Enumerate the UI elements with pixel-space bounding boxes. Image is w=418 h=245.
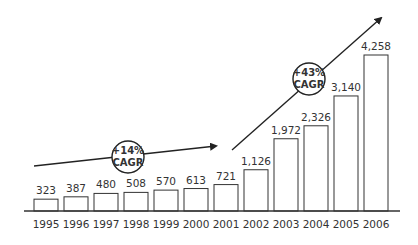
x-tick-label: 2000 xyxy=(183,218,210,230)
x-tick-label: 2003 xyxy=(273,218,300,230)
value-label: 387 xyxy=(66,182,86,194)
x-tick-label: 1995 xyxy=(33,218,60,230)
bar-2002 xyxy=(244,170,268,211)
value-label: 570 xyxy=(156,175,176,187)
bar-chart: 3231995387199648019975081998570199961320… xyxy=(0,0,418,245)
bar-2006 xyxy=(364,55,388,211)
value-label: 613 xyxy=(186,174,206,186)
x-tick-label: 2002 xyxy=(243,218,270,230)
bar-1998 xyxy=(124,192,148,211)
cagr-badge-43: +43% CAGR xyxy=(293,63,325,95)
bar-1999 xyxy=(154,190,178,211)
x-tick-label: 1999 xyxy=(153,218,180,230)
x-tick-label: 1997 xyxy=(93,218,120,230)
x-tick-label: 2005 xyxy=(333,218,360,230)
bar-1995 xyxy=(34,199,58,211)
value-label: 4,258 xyxy=(361,40,391,52)
bar-2001 xyxy=(214,185,238,211)
x-tick-label: 1998 xyxy=(123,218,150,230)
cagr-43-pct: +43% xyxy=(293,67,325,78)
bar-2005 xyxy=(334,96,358,211)
x-tick-label: 2001 xyxy=(213,218,240,230)
bar-1996 xyxy=(64,197,88,211)
value-label: 323 xyxy=(36,184,56,196)
bars-group: 3231995387199648019975081998570199961320… xyxy=(33,40,391,230)
cagr-14-label: CAGR xyxy=(113,157,144,168)
value-label: 1,126 xyxy=(241,155,271,167)
value-label: 480 xyxy=(96,178,116,190)
value-label: 721 xyxy=(216,170,236,182)
cagr-14-pct: +14% xyxy=(112,145,144,156)
bar-2004 xyxy=(304,126,328,211)
cagr-43-label: CAGR xyxy=(294,79,325,90)
bar-2003 xyxy=(274,139,298,211)
value-label: 2,326 xyxy=(301,111,331,123)
cagr-badge-14: +14% CAGR xyxy=(112,141,144,173)
bar-2000 xyxy=(184,189,208,211)
bar-1997 xyxy=(94,193,118,211)
x-tick-label: 2004 xyxy=(303,218,330,230)
value-label: 508 xyxy=(126,177,146,189)
x-tick-label: 2006 xyxy=(363,218,390,230)
x-tick-label: 1996 xyxy=(63,218,90,230)
value-label: 3,140 xyxy=(331,81,361,93)
value-label: 1,972 xyxy=(271,124,301,136)
